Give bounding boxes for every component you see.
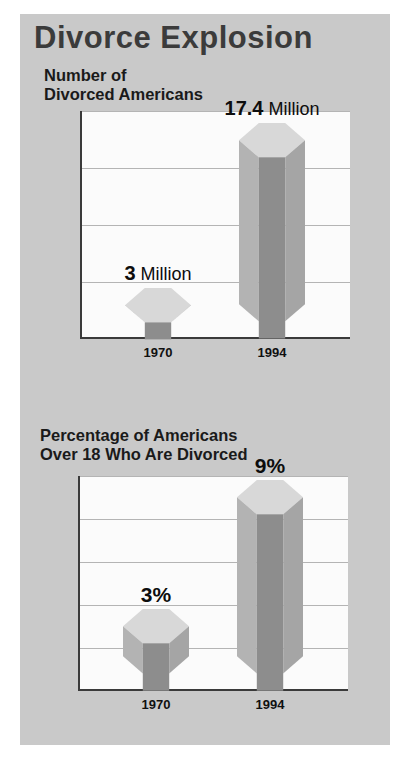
bar-value-unit: Million <box>263 99 319 119</box>
gridline <box>80 519 348 520</box>
chart-title-line2: Over 18 Who Are Divorced <box>40 445 248 463</box>
poster-card: Divorce Explosion Number of Divorced Ame… <box>20 14 390 745</box>
bar-value-label: 3% <box>141 583 171 607</box>
bar-value-label: 9% <box>255 454 285 478</box>
chart-title-line2: Divorced Americans <box>44 85 203 103</box>
bar-value-number: 9% <box>255 454 285 477</box>
gridline <box>82 225 350 226</box>
gridline <box>80 562 348 563</box>
chart-percentage-divorced: Percentage of Americans Over 18 Who Are … <box>20 426 390 746</box>
plot-area: 05101520 3 Million17.4 Million 19701994 <box>80 111 352 339</box>
gridline <box>80 648 348 649</box>
bar <box>125 288 191 339</box>
page-title: Divorce Explosion <box>34 20 386 56</box>
chart-title: Percentage of Americans Over 18 Who Are … <box>40 426 248 464</box>
bar-value-number: 3% <box>141 583 171 606</box>
x-axis-category-label: 1994 <box>232 345 312 360</box>
bar <box>239 123 305 339</box>
bar-value-label: 3 Million <box>124 262 191 285</box>
x-axis-category-label: 1970 <box>118 345 198 360</box>
bar-value-number: 3 <box>124 262 135 284</box>
plot-frame <box>78 476 348 691</box>
chart-title-line1: Number of <box>44 66 127 84</box>
plot-area: 0%2%4%6%8%10% 3%9% 19701994 <box>78 476 350 691</box>
chart-number-of-divorced-americans: Number of Divorced Americans 05101520 3 … <box>20 66 390 411</box>
gridline <box>80 476 348 477</box>
chart-title: Number of Divorced Americans <box>44 66 203 104</box>
chart-title-line1: Percentage of Americans <box>40 426 237 444</box>
bar-value-unit: Million <box>136 264 192 284</box>
gridline <box>82 282 350 283</box>
plot-frame <box>80 111 350 339</box>
bar <box>123 609 189 691</box>
bar <box>237 480 303 691</box>
bar-value-number: 17.4 <box>225 97 264 119</box>
gridline <box>82 168 350 169</box>
bar-value-label: 17.4 Million <box>225 97 320 120</box>
gridline <box>80 605 348 606</box>
x-axis-category-label: 1994 <box>230 697 310 712</box>
x-axis-category-label: 1970 <box>116 697 196 712</box>
